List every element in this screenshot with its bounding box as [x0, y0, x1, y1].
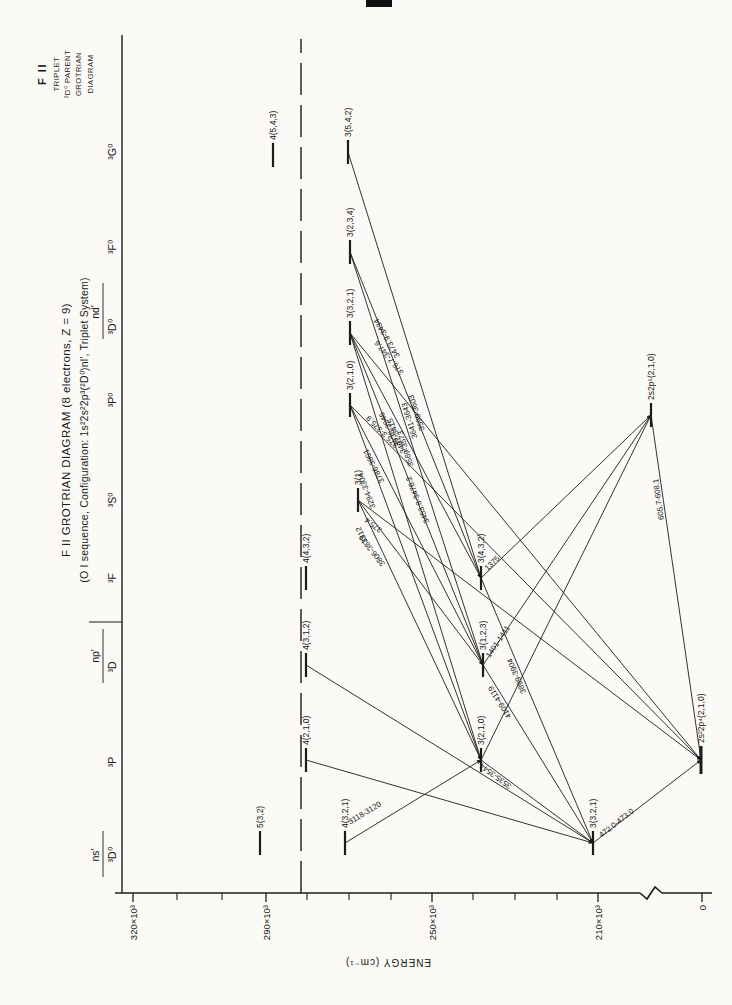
level-label: 3(2,1,0): [345, 361, 355, 390]
wavelength-label: 375.4: [362, 515, 384, 534]
level-label: 3(3,2,1): [588, 799, 598, 828]
wavelength-label: 3806-3819: [357, 533, 387, 568]
level-label: 3(2,1,0): [476, 716, 486, 745]
scan-edge-mark: [366, 0, 392, 7]
term-header: ³F⁰: [106, 239, 118, 254]
diagram-subtitle: (O I sequence, Configuration: 1s²2s²2p³(…: [78, 277, 90, 582]
corner-label: F II TRIPLET ²D⁰ PARENT GROTRIAN DIAGRAM: [34, 28, 96, 120]
level-label: 2s2p⁵(2,1,0): [646, 353, 656, 400]
transition-line: [481, 415, 651, 578]
transition-line: [350, 405, 483, 665]
group-header: np′: [89, 649, 101, 663]
term-header: ³P⁰: [106, 392, 118, 408]
wavelength-label: 3118-3120: [347, 799, 384, 826]
level-label: 4(3,1,2): [301, 621, 311, 650]
axis-tick-label: 320×10³: [128, 905, 139, 940]
diagram-title: F II GROTRIAN DIAGRAM (8 electrons, Z = …: [60, 303, 72, 557]
level-label: 3(2,3,4): [345, 208, 355, 237]
term-header: ³S⁰: [106, 492, 118, 508]
grotrian-diagram-svg: 320×10³290×10³250×10³210×10³0ENERGY (cm⁻…: [0, 0, 732, 1005]
rotated-diagram-stage: 320×10³290×10³250×10³210×10³0ENERGY (cm⁻…: [0, 0, 732, 1005]
term-header: ³G⁰: [106, 143, 118, 160]
level-label: 5(3,2): [255, 806, 265, 828]
term-header: ³P: [106, 757, 118, 768]
corner-label-line: ²D⁰ PARENT: [62, 28, 73, 120]
group-header: nd′: [89, 305, 101, 319]
term-header: ³D: [106, 661, 118, 672]
wavelength-label: 3535-3544: [477, 761, 513, 791]
transition-line: [358, 500, 481, 760]
transition-line: [345, 760, 481, 843]
corner-label-line: GROTRIAN: [73, 28, 84, 120]
transition-line: [348, 152, 481, 578]
wavelength-label: 472.0-473.0: [597, 806, 636, 839]
term-header: ³D⁰: [106, 318, 118, 334]
transition-line: [481, 578, 593, 843]
level-label: 3(5,4,2): [343, 108, 353, 137]
level-label: 4(5,4,3): [268, 111, 278, 140]
level-label: 3(1,2,3): [478, 621, 488, 650]
corner-label-line: DIAGRAM: [85, 28, 96, 120]
level-label: 3(4,3,2): [476, 534, 486, 563]
group-header: ns′: [89, 848, 101, 861]
wavelength-label: 3453.8-3476.2: [404, 475, 431, 525]
axis-tick-label: 0: [697, 905, 708, 910]
axis-break: [640, 887, 662, 899]
axis-tick-label: 210×10³: [593, 905, 604, 940]
term-header: ³D⁰: [106, 846, 118, 862]
corner-label-line: F II: [34, 28, 51, 120]
corner-label-line: TRIPLET: [51, 28, 62, 120]
transition-line: [358, 500, 701, 760]
level-label: 3(3,2,1): [345, 289, 355, 318]
axis-tick-label: 290×10³: [261, 905, 272, 940]
level-label: 4(2,1,0): [301, 716, 311, 745]
level-label: 4(3,2,1): [340, 799, 350, 828]
level-label: 4(4,3,2): [301, 534, 311, 563]
energy-axis-label: ENERGY (cm⁻¹): [345, 957, 431, 968]
level-label: 2s²2p⁴(2,1,0): [696, 693, 706, 743]
scanned-page: 320×10³290×10³250×10³210×10³0ENERGY (cm⁻…: [0, 0, 732, 1005]
term-header: ³F: [106, 573, 118, 583]
transition-line: [350, 405, 701, 760]
axis-tick-label: 250×10³: [427, 905, 438, 940]
